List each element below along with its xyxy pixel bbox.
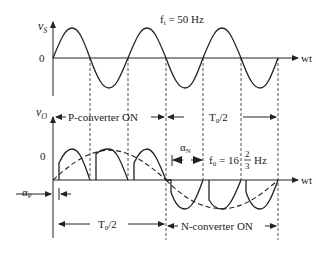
f0-fraction-denominator: 3: [245, 161, 250, 171]
half-period-top-label: T0/2: [209, 111, 228, 125]
n-fundamental-dashed: [166, 180, 278, 209]
input-voltage-plot: vS 0 wt fi = 50 Hz: [38, 13, 312, 96]
output-frequency-label: f0 = 16: [209, 154, 239, 168]
vs-axis-label: vS: [38, 19, 47, 35]
cycloconverter-waveform-diagram: vS 0 wt fi = 50 Hz vO 0 wt P-converter O…: [0, 0, 316, 253]
p-converter-output-wave: [59, 149, 166, 180]
half-period-bottom-label: T0/2: [98, 218, 117, 232]
input-frequency-label: fi = 50 Hz: [160, 13, 204, 27]
n-converter-label: N-converter ON: [181, 220, 253, 232]
vo-wt-label: wt: [301, 174, 312, 186]
alpha-n-label: αN: [180, 141, 191, 155]
f0-fraction-numerator: 2: [245, 149, 250, 159]
vs-zero-label: 0: [39, 52, 45, 64]
vo-zero-label: 0: [40, 150, 46, 162]
vo-axis-label: vO: [36, 105, 47, 121]
p-fundamental-dashed: [53, 150, 166, 180]
p-converter-label: P-converter ON: [68, 111, 138, 123]
output-voltage-plot: vO 0 wt P-converter ON T0/2 αN f0 = 16 2…: [16, 105, 312, 238]
alpha-p-label: αP: [22, 186, 32, 200]
vs-wt-label: wt: [301, 52, 312, 64]
f0-unit: Hz: [254, 154, 267, 166]
n-converter-output-wave: [166, 180, 278, 209]
